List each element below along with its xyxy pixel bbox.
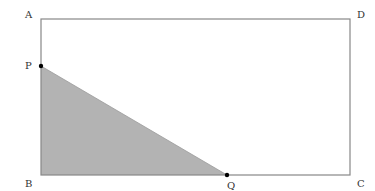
label-p: P — [25, 60, 32, 71]
diagram-canvas: A D P B Q C — [0, 0, 375, 191]
point-q — [225, 173, 229, 177]
label-q: Q — [227, 180, 235, 191]
label-d: D — [357, 9, 365, 20]
label-b: B — [25, 178, 32, 189]
label-a: A — [24, 9, 33, 20]
point-p — [39, 64, 43, 68]
label-c: C — [357, 178, 365, 189]
